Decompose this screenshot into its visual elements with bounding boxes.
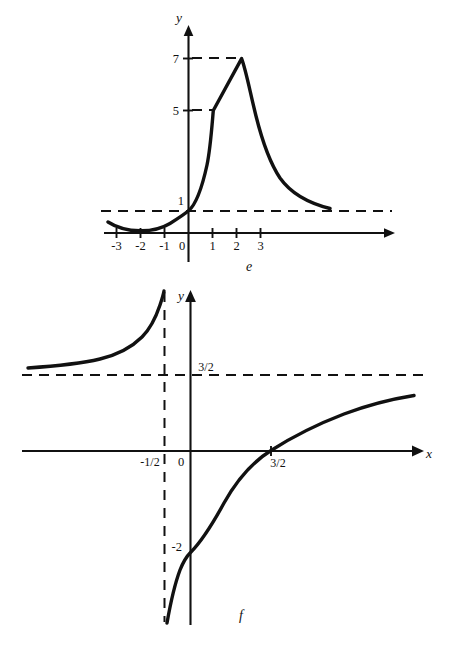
graph-e-name-label: e xyxy=(246,259,252,274)
graph-f-name-label: f xyxy=(239,608,245,623)
graph-f-left-branch xyxy=(28,291,164,368)
plot-canvas: y 7 5 1 -3 -2 -1 0 1 2 3 e xyxy=(0,0,449,645)
graph-e-xlabel--1: -1 xyxy=(159,239,169,253)
graph-e: y 7 5 1 -3 -2 -1 0 1 2 3 e xyxy=(101,10,395,274)
graph-f-x-axis-label: x xyxy=(425,446,432,461)
graph-e-y-axis-label: y xyxy=(174,10,182,25)
graph-e-y-axis-arrow xyxy=(184,25,194,36)
graph-f-horizontal-asymptote-label: 3/2 xyxy=(198,360,213,374)
graph-f-y-intercept-label: -2 xyxy=(172,540,182,554)
graph-e-xlabel-3: 3 xyxy=(257,239,263,253)
graph-e-x-axis-arrow xyxy=(384,228,395,238)
graph-e-xlabel--2: -2 xyxy=(135,239,145,253)
graph-f-y-axis-arrow xyxy=(185,290,196,302)
graph-e-curve xyxy=(108,59,330,231)
graph-f-x-axis-arrow xyxy=(412,446,424,457)
graph-f-right-branch xyxy=(167,396,414,624)
graph-f-y-axis-label: y xyxy=(176,288,184,303)
graph-e-xlabel-0: 0 xyxy=(179,239,185,253)
graph-e-xlabel-2: 2 xyxy=(233,239,239,253)
figure-root: y 7 5 1 -3 -2 -1 0 1 2 3 e xyxy=(0,0,449,645)
graph-f: y x 3/2 -1/2 0 3/2 -2 f xyxy=(22,288,432,625)
graph-f-vertical-asymptote-label: -1/2 xyxy=(140,455,159,469)
graph-e-ylabel-5: 5 xyxy=(173,104,179,118)
graph-e-ylabel-7: 7 xyxy=(173,52,179,66)
graph-e-xlabel--3: -3 xyxy=(111,239,121,253)
graph-e-ylabel-1: 1 xyxy=(178,194,184,208)
graph-f-origin-label: 0 xyxy=(178,455,184,469)
math-figure-panel: y 7 5 1 -3 -2 -1 0 1 2 3 e xyxy=(0,0,449,645)
graph-f-x-intercept-label: 3/2 xyxy=(270,456,285,470)
graph-e-xlabel-1: 1 xyxy=(209,239,215,253)
